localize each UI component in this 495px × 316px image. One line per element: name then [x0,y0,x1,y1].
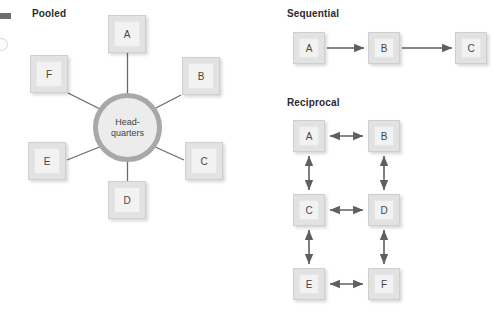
reciprocal-node-a-label: A [299,126,319,146]
pooled-node-d-label: D [114,187,140,213]
hub-label-line2: quarters [111,128,144,139]
sequential-node-c[interactable]: C [455,32,487,64]
section-heading-reciprocal: Reciprocal [287,97,340,108]
pooled-node-e-label: E [34,148,60,174]
reciprocal-node-f[interactable]: F [368,268,400,300]
margin-circle-icon [0,38,8,51]
reciprocal-node-b[interactable]: B [368,120,400,152]
sequential-node-b[interactable]: B [368,32,400,64]
pooled-node-a-label: A [114,21,140,47]
pooled-node-b-label: B [188,63,214,89]
sequential-node-c-label: C [461,38,481,58]
sequential-node-b-label: B [374,38,394,58]
sequential-node-a-label: A [299,38,319,58]
section-heading-pooled: Pooled [32,8,66,19]
reciprocal-node-c[interactable]: C [293,194,325,226]
reciprocal-node-d-label: D [374,200,394,220]
pooled-node-c-label: C [191,148,217,174]
reciprocal-node-f-label: F [374,274,394,294]
reciprocal-node-b-label: B [374,126,394,146]
reciprocal-node-c-label: C [299,200,319,220]
pooled-hub-headquarters[interactable]: Head- quarters [93,93,162,162]
pooled-node-a[interactable]: A [108,15,146,53]
dependence-types-diagram: Pooled A B C D E F Head- quarters Sequen… [0,0,495,316]
reciprocal-node-d[interactable]: D [368,194,400,226]
pooled-node-e[interactable]: E [28,142,66,180]
pooled-node-f-label: F [36,61,62,87]
pooled-node-f[interactable]: F [30,55,68,93]
margin-bullet-icon [0,13,11,19]
pooled-node-b[interactable]: B [182,57,220,95]
hub-label-line1: Head- [115,117,140,128]
reciprocal-node-a[interactable]: A [293,120,325,152]
connector-layer [0,0,495,316]
pooled-node-c[interactable]: C [185,142,223,180]
section-heading-sequential: Sequential [287,8,339,19]
reciprocal-node-e-label: E [299,274,319,294]
pooled-node-d[interactable]: D [108,181,146,219]
sequential-node-a[interactable]: A [293,32,325,64]
reciprocal-node-e[interactable]: E [293,268,325,300]
